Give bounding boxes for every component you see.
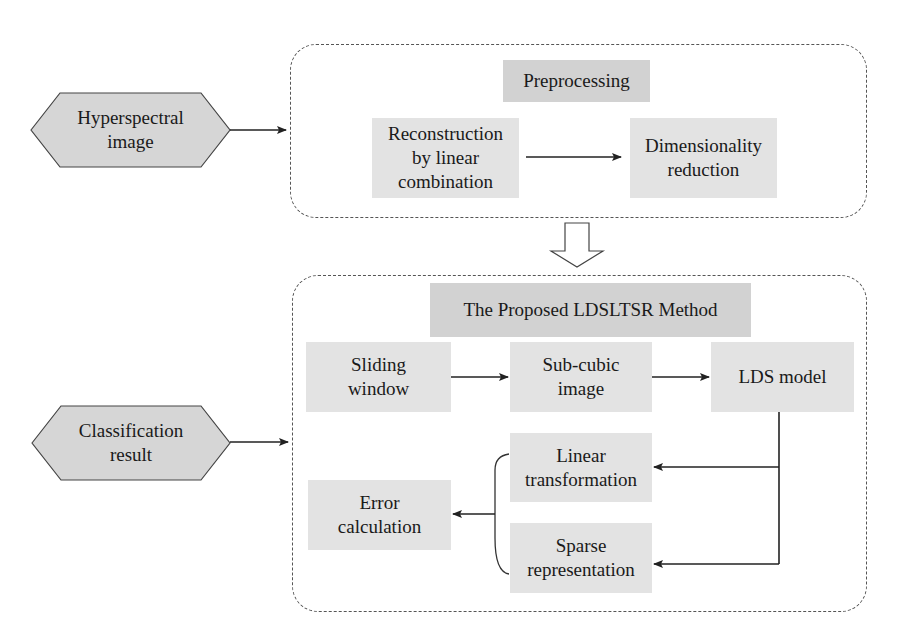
- sparse-representation-node: Sparse representation: [510, 523, 652, 593]
- preprocessing-title-text: Preprocessing: [523, 69, 630, 93]
- sub-cubic-image-node: Sub-cubic image: [510, 342, 652, 412]
- method-title-text: The Proposed LDSLTSR Method: [463, 298, 717, 322]
- sub-cubic-image-label: Sub-cubic image: [542, 353, 619, 401]
- sliding-window-node: Sliding window: [306, 342, 451, 412]
- hyperspectral-image-node: Hyperspectral image: [31, 93, 230, 167]
- sliding-window-label: Sliding window: [348, 353, 409, 401]
- linear-transformation-node: Linear transformation: [510, 433, 652, 502]
- reconstruction-node: Reconstruction by linear combination: [372, 118, 519, 198]
- linear-transformation-label: Linear transformation: [525, 444, 637, 492]
- lds-model-label: LDS model: [738, 365, 826, 389]
- classification-result-node: Classification result: [32, 406, 230, 480]
- method-title: The Proposed LDSLTSR Method: [430, 283, 751, 337]
- dimensionality-reduction-node: Dimensionality reduction: [630, 118, 777, 198]
- reconstruction-label: Reconstruction by linear combination: [388, 122, 503, 194]
- lds-model-node: LDS model: [711, 342, 854, 412]
- error-calculation-label: Error calculation: [338, 491, 421, 539]
- sparse-representation-label: Sparse representation: [527, 534, 635, 582]
- error-calculation-node: Error calculation: [308, 480, 451, 550]
- dimensionality-reduction-label: Dimensionality reduction: [645, 134, 762, 182]
- preprocessing-title: Preprocessing: [503, 60, 650, 102]
- hollow-down-arrow-icon: [551, 223, 603, 267]
